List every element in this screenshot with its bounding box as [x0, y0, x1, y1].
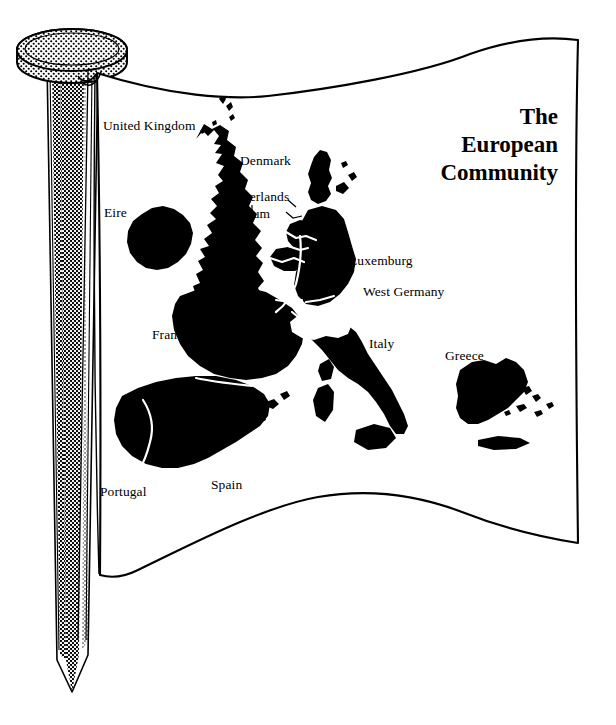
map-label-united-kingdom: United Kingdom — [103, 118, 196, 133]
map-label-spain: Spain — [211, 477, 242, 492]
flag-title-line-2: European — [358, 131, 558, 159]
map-label-netherlands: Netherlands — [223, 189, 289, 204]
map-label-west-germany: West Germany — [363, 284, 444, 299]
map-label-italy: Italy — [369, 336, 394, 351]
map-label-luxemburg: Luxemburg — [349, 253, 413, 268]
map-label-eire: Eire — [104, 205, 127, 220]
map-label-greece: Greece — [445, 348, 484, 363]
map-label-belgium: Belgium — [223, 206, 270, 221]
map-label-denmark: Denmark — [240, 153, 291, 168]
european-community-flag-illustration: United Kingdom Denmark Netherlands Belgi… — [0, 0, 616, 725]
map-label-portugal: Portugal — [100, 484, 147, 499]
flag-title: The European Community — [358, 103, 558, 187]
map-label-france: France — [152, 327, 189, 342]
nail-shaft — [47, 62, 98, 692]
nail-head — [17, 29, 127, 83]
flag-title-line-3: Community — [358, 159, 558, 187]
flag-title-line-1: The — [358, 103, 558, 131]
non-member-switzerland — [290, 312, 352, 340]
